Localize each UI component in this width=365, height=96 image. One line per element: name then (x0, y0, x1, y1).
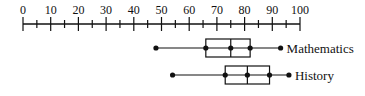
box-plot-history: History (170, 66, 334, 84)
tick-label: 40 (128, 3, 140, 17)
q1-point (203, 45, 208, 50)
tick-label: 0 (20, 3, 26, 17)
min-point (170, 72, 175, 77)
tick-label: 90 (266, 3, 278, 17)
tick-label: 50 (156, 3, 168, 17)
q1-point (223, 72, 228, 77)
tick-label: 70 (211, 3, 223, 17)
median-point (228, 45, 233, 50)
series-label: Mathematics (287, 41, 354, 56)
tick-label: 30 (100, 3, 112, 17)
box-plots: MathematicsHistory (153, 39, 353, 84)
tick-label: 60 (183, 3, 195, 17)
tick-label: 10 (45, 3, 57, 17)
min-point (153, 45, 158, 50)
tick-label: 80 (239, 3, 251, 17)
number-line-axis: 0102030405060708090100 (20, 3, 309, 31)
q3-point (267, 72, 272, 77)
max-point (286, 72, 291, 77)
tick-label: 20 (72, 3, 84, 17)
q3-point (248, 45, 253, 50)
box-plot-chart: 0102030405060708090100 MathematicsHistor… (0, 0, 365, 96)
series-label: History (295, 68, 335, 83)
tick-label: 100 (291, 3, 309, 17)
max-point (278, 45, 283, 50)
median-point (245, 72, 250, 77)
box-plot-mathematics: Mathematics (153, 39, 353, 57)
